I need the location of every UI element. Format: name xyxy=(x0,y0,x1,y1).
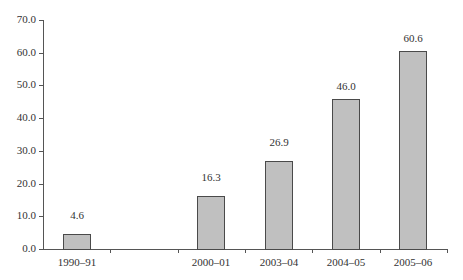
y-tick-mark xyxy=(39,20,43,21)
x-tick-mark xyxy=(380,249,381,253)
bar xyxy=(399,51,427,250)
y-tick-label: 30.0 xyxy=(2,144,36,156)
y-tick-mark xyxy=(39,184,43,185)
bar xyxy=(63,234,91,250)
y-tick-mark xyxy=(39,216,43,217)
x-tick-mark xyxy=(110,249,111,253)
x-category-label: 2003–04 xyxy=(246,256,312,268)
y-tick-label: 40.0 xyxy=(2,111,36,123)
bar-value-label: 4.6 xyxy=(57,209,97,221)
y-tick-label: 70.0 xyxy=(2,13,36,25)
y-tick-label: 60.0 xyxy=(2,46,36,58)
y-tick-mark xyxy=(39,85,43,86)
y-tick-label: 20.0 xyxy=(2,177,36,189)
x-tick-mark xyxy=(178,249,179,253)
x-tick-mark xyxy=(312,249,313,253)
bar-chart: 0.010.020.030.040.050.060.070.0 1990–914… xyxy=(0,0,463,280)
y-tick-label: 50.0 xyxy=(2,78,36,90)
bar-value-label: 26.9 xyxy=(259,136,299,148)
x-category-label: 2005–06 xyxy=(380,256,446,268)
y-axis xyxy=(43,20,44,250)
x-axis xyxy=(39,249,447,250)
x-tick-mark xyxy=(447,249,448,253)
y-tick-mark xyxy=(39,249,43,250)
bar xyxy=(332,99,360,250)
y-tick-mark xyxy=(39,118,43,119)
y-tick-label: 0.0 xyxy=(2,242,36,254)
x-category-label: 2000–01 xyxy=(178,256,244,268)
bar-value-label: 60.6 xyxy=(393,32,433,44)
y-tick-mark xyxy=(39,53,43,54)
y-tick-mark xyxy=(39,151,43,152)
bar-value-label: 46.0 xyxy=(326,80,366,92)
x-category-label: 2004–05 xyxy=(313,256,379,268)
x-tick-mark xyxy=(245,249,246,253)
bar xyxy=(265,161,293,250)
bar-value-label: 16.3 xyxy=(191,171,231,183)
y-tick-label: 10.0 xyxy=(2,209,36,221)
x-category-label: 1990–91 xyxy=(44,256,110,268)
bar xyxy=(197,196,225,250)
